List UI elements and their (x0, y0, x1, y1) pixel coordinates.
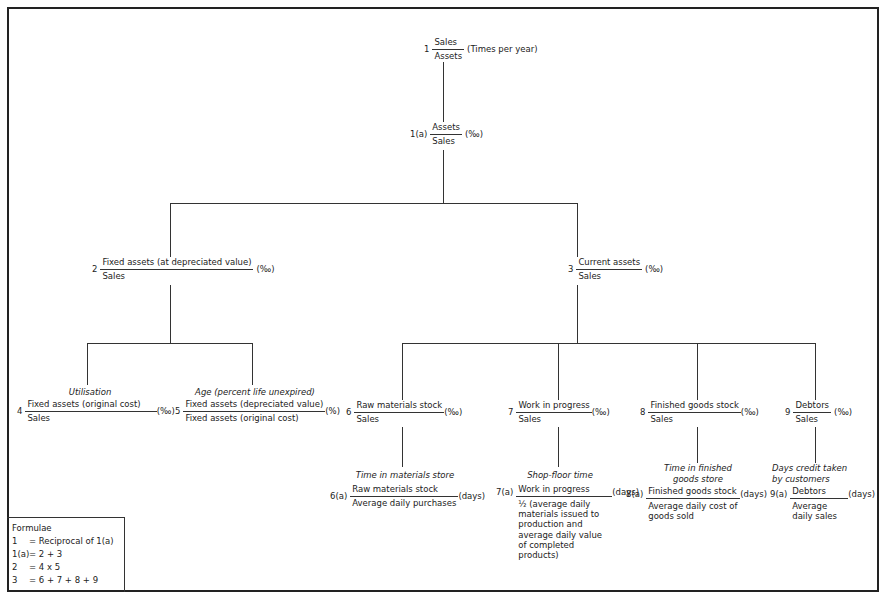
node-index: 1 (424, 45, 429, 54)
connector-to-7 (558, 343, 559, 400)
formula-row: 2= 4 x 5 (12, 562, 124, 575)
unit: (Times per year) (467, 45, 537, 54)
node-4-utilisation: 4Fixed assets (original cost)Sales(‰) (17, 400, 175, 422)
numerator: Fixed assets (at depreciated value) (100, 258, 253, 270)
unit: (‰) (834, 408, 852, 417)
caption-time-in-finished-goods-store: Time in finished goods store (660, 463, 736, 484)
caption-days-credit-taken: Days credit taken by customers (772, 463, 858, 484)
denominator: Average daily sales (790, 499, 848, 522)
connector-2-down (170, 285, 171, 344)
numerator: Fixed assets (depreciated value) (183, 400, 325, 412)
node-index: 9 (785, 408, 790, 417)
numerator: Assets (430, 123, 462, 135)
formula-value: = Reciprocal of 1(a) (29, 536, 114, 549)
node-index: 9(a) (770, 490, 787, 499)
unit: (‰) (157, 407, 175, 416)
numerator: Raw materials stock (350, 485, 458, 497)
formula-value: = 4 x 5 (29, 562, 60, 575)
connector-bar-left (87, 343, 253, 344)
formula-row: 3= 6 + 7 + 8 + 9 (12, 575, 124, 588)
formula-key: 1 (12, 536, 29, 549)
unit: (%) (325, 407, 340, 416)
connector-to-2 (170, 203, 171, 257)
node-3-current-assets-sales: 3Current assetsSales(‰) (568, 258, 663, 280)
formula-row: 1= Reciprocal of 1(a) (12, 536, 124, 549)
node-9-debtors: 9DebtorsSales(‰) (785, 401, 852, 423)
connector-to-8 (697, 343, 698, 400)
connector-8-8a (697, 427, 698, 463)
formulae-title: Formulae (12, 523, 124, 536)
denominator: Sales (25, 412, 156, 423)
denominator: Sales (648, 413, 740, 424)
unit: (days) (740, 490, 767, 499)
formula-key: 1(a) (12, 549, 29, 562)
formula-row: 1(a)= 2 + 3 (12, 549, 124, 562)
unit: (days) (458, 492, 485, 501)
numerator: Raw materials stock (354, 401, 444, 413)
node-1a-assets-sales: 1(a)AssetsSales(‰) (410, 123, 483, 145)
node-index: 7(a) (496, 488, 513, 497)
numerator: Sales (432, 38, 464, 50)
connector-1a-down (443, 150, 444, 204)
numerator: Debtors (790, 487, 848, 499)
formula-value: = 6 + 7 + 8 + 9 (29, 575, 98, 588)
numerator: Fixed assets (original cost) (25, 400, 156, 412)
connector-to-4 (87, 343, 88, 385)
node-index: 5 (175, 407, 180, 416)
denominator: Sales (516, 413, 591, 424)
node-index: 1(a) (410, 130, 427, 139)
numerator: Finished goods stock (648, 401, 740, 413)
node-5-age: 5Fixed assets (depreciated value)Fixed a… (175, 400, 340, 422)
denominator: Sales (100, 270, 253, 281)
unit: (‰) (741, 408, 759, 417)
unit: (‰) (256, 265, 274, 274)
connector-6-6a (402, 427, 403, 467)
numerator: Finished goods stock (646, 487, 740, 499)
node-index: 3 (568, 265, 573, 274)
denominator: Sales (576, 270, 642, 281)
node-1-sales-assets: 1SalesAssets(Times per year) (424, 38, 537, 60)
numerator: Work in progress (516, 485, 612, 497)
denominator: Assets (432, 50, 464, 61)
connector-bar-level2 (170, 203, 578, 204)
unit: (‰) (592, 408, 610, 417)
denominator: ½ (average daily materials issued to pro… (516, 497, 612, 561)
node-index: 6(a) (330, 492, 347, 501)
node-index: 4 (17, 407, 22, 416)
caption-utilisation: Utilisation (40, 387, 140, 398)
numerator: Current assets (576, 258, 642, 270)
unit: (‰) (465, 130, 483, 139)
unit: (‰) (444, 408, 462, 417)
denominator: Average daily cost of goods sold (646, 499, 740, 522)
node-8a-finished-goods-days: 8(a)Finished goods stockAverage daily co… (626, 487, 767, 521)
node-index: 6 (346, 408, 351, 417)
connector-7-7a (558, 427, 559, 467)
numerator: Debtors (793, 401, 831, 413)
node-index: 7 (508, 408, 513, 417)
formulae-legend: Formulae 1= Reciprocal of 1(a) 1(a)= 2 +… (7, 517, 125, 592)
numerator: Work in progress (516, 401, 591, 413)
connector-9-9a (815, 427, 816, 463)
node-7a-work-in-progress-days: 7(a)Work in progress½ (average daily mat… (496, 485, 639, 561)
connector-3-down (577, 285, 578, 344)
unit: (days) (848, 490, 875, 499)
caption-time-in-materials-store: Time in materials store (340, 470, 470, 481)
denominator: Sales (793, 413, 831, 424)
connector-to-9 (815, 343, 816, 400)
formula-value: = 2 + 3 (29, 549, 62, 562)
node-index: 2 (92, 265, 97, 274)
denominator: Sales (430, 135, 462, 146)
denominator: Fixed assets (original cost) (183, 412, 325, 423)
node-6-raw-materials: 6Raw materials stockSales(‰) (346, 401, 462, 423)
denominator: Average daily purchases (350, 497, 458, 508)
connector-to-3 (577, 203, 578, 257)
node-8-finished-goods: 8Finished goods stockSales(‰) (640, 401, 759, 423)
node-9a-debtors-days: 9(a)DebtorsAverage daily sales(days) (770, 487, 875, 521)
unit: (‰) (645, 265, 663, 274)
formula-key: 3 (12, 575, 29, 588)
connector-to-5 (252, 343, 253, 385)
node-2-fixed-assets-sales: 2Fixed assets (at depreciated value)Sale… (92, 258, 275, 280)
node-7-work-in-progress: 7Work in progressSales(‰) (508, 401, 610, 423)
caption-age: Age (percent life unexpired) (175, 387, 335, 398)
caption-shop-floor-time: Shop-floor time (510, 470, 610, 481)
